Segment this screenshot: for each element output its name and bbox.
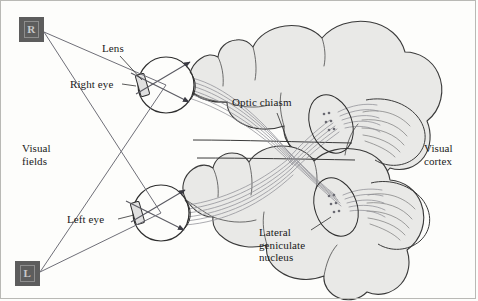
brain-group <box>183 21 442 300</box>
label-right-eye: Right eye <box>70 78 113 91</box>
leader-left-eye <box>118 215 134 219</box>
label-left-eye: Left eye <box>67 213 104 226</box>
label-visual-cortex: Visual cortex <box>424 142 453 167</box>
ray-right-field-to-left-eye <box>44 32 161 213</box>
diagram-canvas <box>0 0 478 301</box>
ray-left-field-to-right-eye <box>40 85 166 272</box>
left-field-marker-letter: L <box>20 265 35 282</box>
visual-pathway-figure: R L Lens Right eye Left eye Optic chiasm… <box>0 0 478 301</box>
left-field-marker[interactable]: L <box>15 261 40 286</box>
right-field-marker-letter: R <box>24 21 39 38</box>
label-visual-fields: Visual fields <box>22 142 51 167</box>
leader-lens <box>120 56 142 80</box>
right-field-marker[interactable]: R <box>19 17 44 42</box>
leader-right-eye <box>122 84 136 86</box>
label-optic-chiasm: Optic chiasm <box>232 96 292 109</box>
label-lens: Lens <box>102 42 124 55</box>
label-lateral-geniculate-nucleus: Lateral geniculate nucleus <box>259 226 305 264</box>
